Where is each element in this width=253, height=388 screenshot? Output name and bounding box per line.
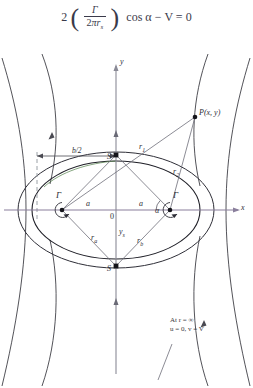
semi-axis-left-label: a xyxy=(86,199,90,208)
radius-ra-line xyxy=(62,210,116,266)
vortex-left-label: Γ xyxy=(56,190,61,200)
y-axis-flow-arrow-lower xyxy=(114,298,119,305)
vortex-left-center-dot xyxy=(60,208,65,213)
fraction-denominator: 2πrs xyxy=(84,16,107,31)
radius-rb-subscript: b xyxy=(140,241,143,247)
figure-page: 2 ( Γ 2πrs ) cos α − V = 0 xyxy=(0,0,253,388)
streamline-right-inner-lower xyxy=(194,236,208,386)
stagnation-bottom-label: S xyxy=(107,264,111,273)
streamline-group-right xyxy=(194,54,250,386)
x-axis-arrowhead xyxy=(233,208,240,213)
semi-axis-right-label: a xyxy=(139,199,143,208)
stagnation-point-top-marker xyxy=(114,153,119,158)
y-axis-label: y xyxy=(120,57,124,66)
far-field-annotation: At r = ∞ u = 0, v = V xyxy=(170,316,204,335)
equation-paren-open: ( xyxy=(71,5,80,31)
radius-r1-label: r1 xyxy=(139,142,145,153)
flow-field-diagram xyxy=(0,44,253,388)
annotation-leader-line xyxy=(158,344,172,380)
radius-r2-label: r2 xyxy=(173,167,179,178)
stagnation-top-label: S xyxy=(107,152,111,161)
denominator-subscript: s xyxy=(100,23,103,31)
y-stagnation-label: ys xyxy=(119,227,125,238)
point-p-marker xyxy=(193,115,198,120)
far-field-line-1: At r = ∞ xyxy=(170,316,204,325)
radius-r1-subscript: 1 xyxy=(142,147,145,153)
alpha-angle-label: α xyxy=(155,206,159,215)
equation-tail: cos α − V = 0 xyxy=(126,10,191,25)
streamline-left-inner-lower xyxy=(42,240,56,386)
stagnation-point-bottom-marker xyxy=(114,264,119,269)
equation-fraction: Γ 2πrs xyxy=(84,4,107,31)
radius-r2-subscript: 2 xyxy=(176,172,179,178)
far-field-line-2: u = 0, v = V xyxy=(170,325,204,334)
streamline-flow-arrow-left xyxy=(49,132,55,140)
y-axis-arrowhead xyxy=(114,64,119,71)
equation-coefficient: 2 xyxy=(61,10,67,25)
streamline-left-outer xyxy=(2,58,26,386)
y-stagnation-subscript: s xyxy=(123,232,125,238)
half-width-label: b/2 xyxy=(72,146,82,155)
x-axis-label: x xyxy=(241,203,245,212)
radius-ra-subscript: a xyxy=(94,238,97,244)
streamline-group-left xyxy=(2,54,56,386)
vortex-right-center-dot xyxy=(168,208,173,213)
fraction-numerator: Γ xyxy=(84,4,107,16)
streamline-right-inner xyxy=(194,54,208,186)
origin-label: 0 xyxy=(110,212,114,221)
equation-display: 2 ( Γ 2πrs ) cos α − V = 0 xyxy=(0,4,253,31)
radius-ra-label: ra xyxy=(91,233,97,244)
streamline-right-outer xyxy=(226,58,250,386)
y-axis-flow-arrow-upper xyxy=(114,130,119,137)
b-half-arrow-left xyxy=(37,154,43,159)
point-p-label: P(x, y) xyxy=(199,108,220,117)
vortex-right-label: Γ xyxy=(173,190,178,200)
radius-rb-label: rb xyxy=(137,236,143,247)
equation-paren-close: ) xyxy=(110,5,119,31)
